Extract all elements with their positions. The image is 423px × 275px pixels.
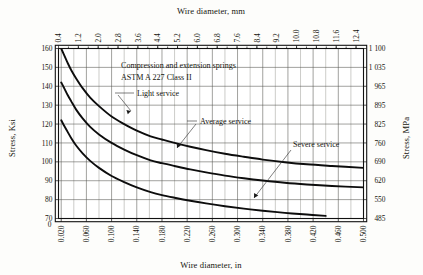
top-tick-label-12.4: 12.4	[352, 29, 361, 42]
bottom-tick-label-0.460: 0.460	[334, 225, 343, 242]
top-tick-label-10.0: 10.0	[292, 29, 301, 42]
top-tick-label-7.6: 7.6	[233, 33, 242, 43]
bottom-tick-label-0.220: 0.220	[183, 225, 192, 242]
left-tick-label-100: 100	[41, 157, 52, 166]
top-tick-label-8.4: 8.4	[253, 33, 262, 43]
top-tick-label-11.6: 11.6	[332, 30, 341, 43]
right-tick-label-5: 760	[374, 139, 385, 148]
left-tick-label-90: 90	[45, 176, 53, 185]
right-tick-label-6: 690	[374, 157, 385, 166]
left-tick-label-160: 160	[41, 44, 52, 53]
bottom-tick-label-0.060: 0.060	[82, 225, 91, 242]
left-tick-label-150: 150	[41, 63, 52, 72]
top-tick-label-1.2: 1.2	[74, 33, 83, 43]
bottom-tick-label-0.100: 0.100	[107, 225, 116, 242]
left-tick-label-130: 130	[41, 101, 52, 110]
top-axis-title: Wire diameter, mm	[177, 6, 245, 16]
bottom-tick-label-0.020: 0.020	[57, 225, 66, 242]
bottom-tick-label-0.340: 0.340	[258, 225, 267, 242]
chart-canvas: 160150140130120110100908070Stress, Ksi1 …	[0, 0, 423, 275]
right-tick-label-3: 895	[374, 101, 385, 110]
bottom-tick-label-0.380: 0.380	[284, 225, 293, 242]
annotation-severe-service: Severe service	[293, 140, 340, 149]
top-tick-label-4.4: 4.4	[153, 33, 162, 43]
chart-title-line1: Compression and extension springs	[121, 61, 236, 70]
bottom-tick-label-0.420: 0.420	[309, 225, 318, 242]
right-axis-title: Stress, MPa	[401, 117, 411, 159]
plot-background	[59, 49, 364, 219]
top-tick-label-2.0: 2.0	[94, 33, 103, 43]
right-tick-label-7: 620	[374, 176, 385, 185]
top-tick-label-9.2: 9.2	[272, 33, 281, 43]
top-tick-label-0.4: 0.4	[54, 33, 63, 43]
left-tick-label-110: 110	[42, 139, 53, 148]
annotation-average-service: Average service	[200, 117, 252, 126]
right-tick-label-1: 1 035	[369, 63, 386, 72]
right-tick-label-8: 550	[374, 195, 385, 204]
bottom-tick-label-0.260: 0.260	[208, 225, 217, 242]
bottom-tick-label-0.180: 0.180	[158, 225, 167, 242]
bottom-axis-title: Wire diameter, in	[180, 260, 242, 270]
bottom-axis-zero: 0	[48, 220, 52, 229]
annotation-light-service: Light service	[137, 89, 179, 98]
right-tick-label-9: 485	[374, 214, 385, 223]
left-tick-label-120: 120	[41, 120, 52, 129]
right-tick-label-2: 965	[374, 82, 385, 91]
right-tick-label-0: 1 100	[369, 44, 386, 53]
chart-title-line2: ASTM A 227 Class II	[121, 73, 192, 82]
bottom-tick-label-0.500: 0.500	[359, 225, 368, 242]
top-tick-label-6.8: 6.8	[213, 33, 222, 43]
bottom-tick-label-0.140: 0.140	[132, 225, 141, 242]
spring-stress-chart: 160150140130120110100908070Stress, Ksi1 …	[0, 0, 423, 275]
left-tick-label-80: 80	[45, 195, 53, 204]
top-tick-label-3.6: 3.6	[134, 33, 143, 43]
top-tick-label-5.2: 5.2	[173, 33, 182, 43]
left-axis-title: Stress, Ksi	[7, 119, 17, 157]
top-tick-label-2.8: 2.8	[114, 33, 123, 43]
right-tick-label-4: 825	[374, 120, 385, 129]
left-tick-label-140: 140	[41, 82, 52, 91]
top-tick-label-6.0: 6.0	[193, 33, 202, 43]
bottom-tick-label-0.300: 0.300	[233, 225, 242, 242]
top-tick-label-10.8: 10.8	[312, 29, 321, 42]
